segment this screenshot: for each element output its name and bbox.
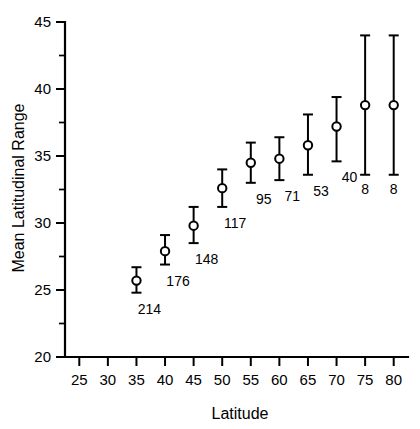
data-point-lat-45 xyxy=(189,207,199,243)
data-point-lat-40 xyxy=(160,235,170,264)
x-axis-tick-labels: 253035404550556065707580 xyxy=(71,371,402,388)
sample-size-label-lat-45: 148 xyxy=(195,251,219,267)
y-tick-label-30: 30 xyxy=(34,214,51,231)
data-marker xyxy=(247,159,255,167)
data-point-lat-50 xyxy=(217,169,227,207)
sample-size-label-lat-75: 8 xyxy=(361,181,369,197)
x-tick-label-40: 40 xyxy=(157,371,174,388)
x-tick-label-70: 70 xyxy=(328,371,345,388)
data-point-lat-55 xyxy=(246,143,256,183)
sample-size-label-lat-80: 8 xyxy=(390,181,398,197)
y-axis-tick-labels: 202530354045 xyxy=(34,13,51,365)
data-point-lat-35 xyxy=(131,267,141,292)
sample-size-label-lat-65: 53 xyxy=(313,183,329,199)
y-axis-title: Mean Latitudinal Range xyxy=(10,103,27,272)
x-axis-title: Latitude xyxy=(212,405,269,422)
x-tick-label-30: 30 xyxy=(100,371,117,388)
y-tick-label-45: 45 xyxy=(34,13,51,30)
x-tick-label-55: 55 xyxy=(242,371,259,388)
x-axis-ticks xyxy=(79,357,393,366)
x-tick-label-25: 25 xyxy=(71,371,88,388)
data-marker xyxy=(275,154,283,162)
data-marker xyxy=(218,184,226,192)
data-point-lat-70 xyxy=(332,97,342,161)
data-marker xyxy=(161,247,169,255)
data-point-lat-60 xyxy=(274,137,284,180)
x-tick-label-75: 75 xyxy=(357,371,374,388)
data-marker xyxy=(132,276,140,284)
data-marker xyxy=(390,101,398,109)
x-tick-label-80: 80 xyxy=(385,371,402,388)
data-marker xyxy=(304,141,312,149)
data-marker xyxy=(332,122,340,130)
x-tick-label-45: 45 xyxy=(185,371,202,388)
data-series-error-bars xyxy=(131,35,398,292)
sample-size-labels: 2141761481179571534088 xyxy=(138,169,398,316)
y-tick-label-35: 35 xyxy=(34,147,51,164)
data-marker xyxy=(189,221,197,229)
y-tick-label-25: 25 xyxy=(34,281,51,298)
data-marker xyxy=(361,101,369,109)
data-point-lat-75 xyxy=(360,35,370,174)
sample-size-label-lat-40: 176 xyxy=(166,273,190,289)
y-tick-label-20: 20 xyxy=(34,348,51,365)
x-tick-label-35: 35 xyxy=(128,371,145,388)
sample-size-label-lat-55: 95 xyxy=(256,191,272,207)
x-tick-label-65: 65 xyxy=(300,371,317,388)
data-point-lat-65 xyxy=(303,114,313,174)
sample-size-label-lat-70: 40 xyxy=(342,169,358,185)
scatter-plot-svg: 202530354045 253035404550556065707580 21… xyxy=(0,0,420,429)
x-tick-label-60: 60 xyxy=(271,371,288,388)
x-tick-label-50: 50 xyxy=(214,371,231,388)
sample-size-label-lat-60: 71 xyxy=(285,188,301,204)
chart-figure: 202530354045 253035404550556065707580 21… xyxy=(0,0,420,429)
data-point-lat-80 xyxy=(389,35,399,174)
sample-size-label-lat-50: 117 xyxy=(224,215,247,231)
y-tick-label-40: 40 xyxy=(34,80,51,97)
sample-size-label-lat-35: 214 xyxy=(138,301,162,317)
